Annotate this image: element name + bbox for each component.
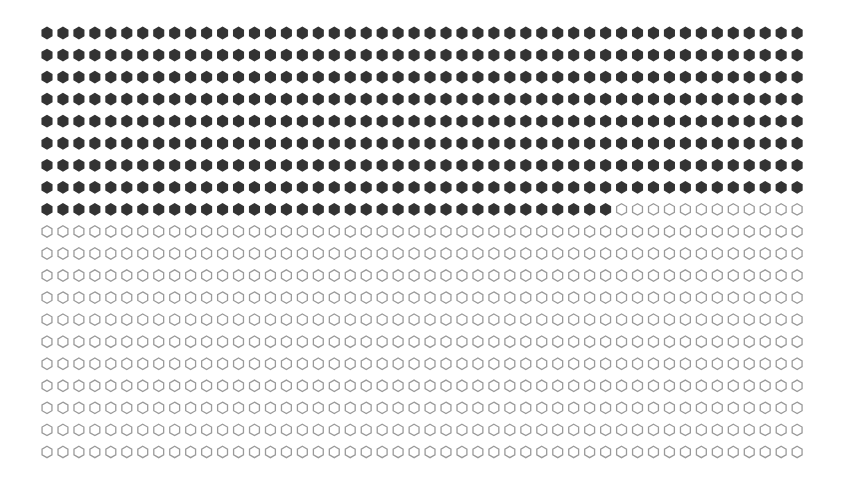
- hexagon-empty-icon: [760, 446, 770, 457]
- hexagon-filled-icon: [329, 181, 340, 194]
- hexagon-filled-icon: [137, 27, 148, 40]
- hexagon-filled-icon: [520, 181, 531, 194]
- hexagon-empty-icon: [281, 336, 291, 347]
- hexagon-filled-icon: [440, 137, 451, 150]
- hexagon-empty-icon: [617, 204, 627, 215]
- hexagon-filled-icon: [137, 115, 148, 128]
- hexagon-filled-icon: [664, 159, 675, 172]
- hexagon-empty-icon: [74, 292, 84, 303]
- hexagon-empty-icon: [680, 380, 690, 391]
- hexagon-empty-icon: [313, 446, 323, 457]
- hexagon-empty-icon: [601, 446, 611, 457]
- hexagon-empty-icon: [234, 270, 244, 281]
- hexagon-filled-icon: [696, 27, 707, 40]
- hexagon-filled-icon: [488, 71, 499, 84]
- hexagon-filled-icon: [361, 71, 372, 84]
- hexagon-empty-icon: [696, 248, 706, 259]
- hexagon-empty-icon: [250, 358, 260, 369]
- hexagon-filled-icon: [632, 181, 643, 194]
- hexagon-empty-icon: [138, 226, 148, 237]
- hexagon-filled-icon: [169, 27, 180, 40]
- hexagon-empty-icon: [728, 380, 738, 391]
- hexagon-empty-icon: [234, 336, 244, 347]
- hexagon-filled-icon: [233, 203, 244, 216]
- hexagon-filled-icon: [233, 181, 244, 194]
- hexagon-empty-icon: [74, 226, 84, 237]
- hexagon-filled-icon: [89, 27, 100, 40]
- hexagon-empty-icon: [537, 358, 547, 369]
- hexagon-filled-icon: [121, 93, 132, 106]
- hexagon-empty-icon: [505, 380, 515, 391]
- hexagon-empty-icon: [665, 358, 675, 369]
- hexagon-empty-icon: [569, 292, 579, 303]
- hexagon-filled-icon: [313, 49, 324, 62]
- hexagon-filled-icon: [89, 137, 100, 150]
- hexagon-filled-icon: [536, 27, 547, 40]
- hexagon-filled-icon: [472, 159, 483, 172]
- hexagon-empty-icon: [665, 424, 675, 435]
- hexagon-empty-icon: [601, 380, 611, 391]
- hexagon-empty-icon: [122, 314, 132, 325]
- hexagon-empty-icon: [234, 446, 244, 457]
- hexagon-filled-icon: [664, 181, 675, 194]
- hexagon-filled-icon: [456, 71, 467, 84]
- hexagon-empty-icon: [106, 226, 116, 237]
- hexagon-filled-icon: [201, 115, 212, 128]
- hexagon-empty-icon: [760, 402, 770, 413]
- hexagon-filled-icon: [648, 137, 659, 150]
- hexagon-filled-icon: [185, 159, 196, 172]
- hexagon-empty-icon: [569, 226, 579, 237]
- hexagon-filled-icon: [616, 115, 627, 128]
- hexagon-empty-icon: [728, 446, 738, 457]
- hexagon-empty-icon: [553, 248, 563, 259]
- hexagon-empty-icon: [345, 380, 355, 391]
- hexagon-empty-icon: [712, 204, 722, 215]
- hexagon-filled-icon: [313, 203, 324, 216]
- hexagon-empty-icon: [505, 336, 515, 347]
- hexagon-filled-icon: [377, 71, 388, 84]
- hexagon-empty-icon: [90, 336, 100, 347]
- hexagon-filled-icon: [265, 115, 276, 128]
- hexagon-empty-icon: [154, 248, 164, 259]
- hexagon-empty-icon: [154, 270, 164, 281]
- hexagon-filled-icon: [249, 49, 260, 62]
- hexagon-filled-icon: [73, 203, 84, 216]
- hexagon-empty-icon: [505, 446, 515, 457]
- hexagon-empty-icon: [680, 248, 690, 259]
- hexagon-empty-icon: [154, 402, 164, 413]
- hexagon-filled-icon: [217, 27, 228, 40]
- hexagon-empty-icon: [393, 226, 403, 237]
- hexagon-empty-icon: [90, 446, 100, 457]
- hexagon-empty-icon: [218, 248, 228, 259]
- hexagon-filled-icon: [121, 137, 132, 150]
- hexagon-filled-icon: [377, 159, 388, 172]
- hexagon-empty-icon: [680, 336, 690, 347]
- hexagon-filled-icon: [57, 137, 68, 150]
- hexagon-empty-icon: [633, 402, 643, 413]
- hexagon-empty-icon: [473, 248, 483, 259]
- hexagon-filled-icon: [329, 27, 340, 40]
- hexagon-empty-icon: [489, 292, 499, 303]
- hexagon-filled-icon: [600, 93, 611, 106]
- hexagon-empty-icon: [744, 402, 754, 413]
- hexagon-empty-icon: [601, 226, 611, 237]
- hexagon-filled-icon: [393, 93, 404, 106]
- hexagon-empty-icon: [42, 292, 52, 303]
- hexagon-filled-icon: [217, 137, 228, 150]
- hexagon-empty-icon: [633, 248, 643, 259]
- hexagon-empty-icon: [409, 226, 419, 237]
- hexagon-empty-icon: [297, 226, 307, 237]
- hexagon-filled-icon: [648, 115, 659, 128]
- hexagon-empty-icon: [186, 380, 196, 391]
- hexagon-filled-icon: [664, 27, 675, 40]
- hexagon-empty-icon: [361, 380, 371, 391]
- hexagon-empty-icon: [58, 226, 68, 237]
- hexagon-empty-icon: [617, 424, 627, 435]
- hexagon-empty-icon: [393, 446, 403, 457]
- hexagon-empty-icon: [42, 446, 52, 457]
- hexagon-filled-icon: [776, 27, 787, 40]
- hexagon-empty-icon: [122, 226, 132, 237]
- hexagon-empty-icon: [569, 336, 579, 347]
- hexagon-filled-icon: [169, 203, 180, 216]
- hexagon-filled-icon: [776, 115, 787, 128]
